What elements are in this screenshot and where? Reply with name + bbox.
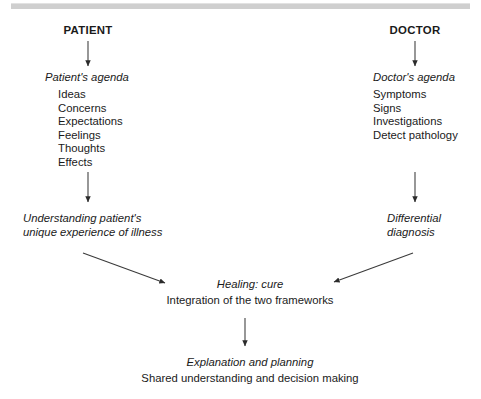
convergence-title: Healing: cure	[166, 277, 333, 292]
list-item: Symptoms	[373, 88, 458, 102]
patient-agenda-label: Patient's agenda	[45, 71, 129, 85]
list-item: Investigations	[373, 115, 458, 129]
header-rule	[11, 3, 470, 9]
doctor-outcome-line-2: diagnosis	[387, 225, 441, 239]
patient-outcome-line-1: Understanding patient's	[23, 211, 162, 225]
list-item: Signs	[373, 102, 458, 116]
conclusion-block: Explanation and planning Shared understa…	[141, 355, 358, 386]
convergence-block: Healing: cure Integration of the two fra…	[166, 277, 333, 308]
doctor-outcome: Differential diagnosis	[387, 211, 441, 239]
flow-diagram-canvas: PATIENT Patient's agenda Ideas Concerns …	[0, 0, 481, 399]
list-item: Thoughts	[58, 142, 123, 156]
arrow-understanding-to-healing	[83, 253, 165, 283]
doctor-agenda-list: Symptoms Signs Investigations Detect pat…	[373, 88, 458, 142]
doctor-heading: DOCTOR	[390, 24, 441, 38]
patient-heading: PATIENT	[63, 24, 112, 38]
list-item: Detect pathology	[373, 129, 458, 143]
list-item: Concerns	[58, 102, 123, 116]
conclusion-subtitle: Shared understanding and decision making	[141, 370, 358, 386]
arrow-diagnosis-to-healing	[334, 253, 413, 282]
patient-outcome-line-2: unique experience of illness	[23, 225, 162, 239]
patient-outcome: Understanding patient's unique experienc…	[23, 211, 162, 239]
arrow-layer	[0, 0, 481, 399]
convergence-subtitle: Integration of the two frameworks	[166, 292, 333, 308]
conclusion-title: Explanation and planning	[141, 355, 358, 370]
list-item: Feelings	[58, 129, 123, 143]
list-item: Effects	[58, 156, 123, 170]
doctor-agenda-label: Doctor's agenda	[373, 71, 455, 85]
list-item: Expectations	[58, 115, 123, 129]
patient-agenda-list: Ideas Concerns Expectations Feelings Tho…	[58, 88, 123, 170]
list-item: Ideas	[58, 88, 123, 102]
doctor-outcome-line-1: Differential	[387, 211, 441, 225]
